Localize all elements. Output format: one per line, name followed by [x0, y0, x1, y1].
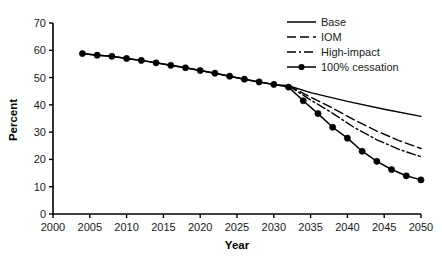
data-point-marker	[227, 73, 233, 79]
x-tick-label: 2030	[262, 221, 286, 233]
data-point-marker	[285, 84, 291, 90]
x-tick-label: 2035	[298, 221, 322, 233]
data-point-marker	[374, 158, 380, 164]
legend-label: 100% cessation	[321, 61, 399, 73]
data-point-marker	[256, 79, 262, 85]
legend-label: High-impact	[321, 46, 380, 58]
data-point-marker	[109, 53, 115, 59]
x-tick-label: 2010	[114, 221, 138, 233]
data-point-marker	[315, 110, 321, 116]
y-tick-label: 0	[40, 208, 46, 220]
chart-figure: 010203040506070 200020052010201520202025…	[0, 0, 442, 267]
x-tick-label: 2045	[372, 221, 396, 233]
x-tick-label: 2005	[78, 221, 102, 233]
line-chart: 010203040506070 200020052010201520202025…	[0, 0, 442, 267]
data-point-marker	[79, 50, 85, 56]
data-point-marker	[182, 65, 188, 71]
x-tick-label: 2040	[335, 221, 359, 233]
x-tick-label: 2020	[188, 221, 212, 233]
data-point-marker	[359, 148, 365, 154]
x-axis-title: Year	[225, 239, 250, 251]
x-tick-label: 2025	[225, 221, 249, 233]
data-point-marker	[241, 76, 247, 82]
data-point-marker	[138, 57, 144, 63]
data-point-marker	[153, 60, 159, 66]
y-axis-title: Percent	[7, 99, 19, 141]
x-tick-label: 2015	[151, 221, 175, 233]
data-point-marker	[168, 62, 174, 68]
data-point-marker	[418, 177, 424, 183]
x-tick-label: 2050	[409, 221, 433, 233]
data-point-marker	[124, 55, 130, 61]
data-point-marker	[388, 166, 394, 172]
data-point-marker	[330, 124, 336, 130]
y-tick-label: 10	[34, 181, 46, 193]
data-point-marker	[344, 135, 350, 141]
data-point-marker	[300, 98, 306, 104]
data-point-marker	[212, 70, 218, 76]
legend-label: IOM	[321, 31, 342, 43]
y-tick-label: 50	[34, 72, 46, 84]
data-point-marker	[94, 52, 100, 58]
y-tick-label: 60	[34, 44, 46, 56]
y-tick-label: 70	[34, 17, 46, 29]
data-point-marker	[403, 173, 409, 179]
legend-swatch-marker	[298, 64, 304, 70]
y-tick-label: 30	[34, 126, 46, 138]
data-point-marker	[271, 81, 277, 87]
y-tick-label: 20	[34, 153, 46, 165]
legend-label: Base	[321, 16, 346, 28]
y-tick-label: 40	[34, 99, 46, 111]
x-tick-label: 2000	[41, 221, 65, 233]
data-point-marker	[197, 67, 203, 73]
